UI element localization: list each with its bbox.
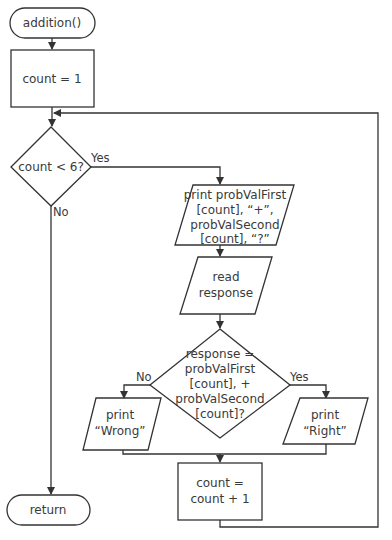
increment-line-1: count = [196, 476, 244, 490]
read-response-line-1: read [212, 270, 239, 284]
read-response-line-2: response [199, 286, 254, 300]
answer-yes-label: Yes [289, 370, 309, 384]
print-wrong-io: print “Wrong” [83, 398, 161, 450]
print-right-io: print “Right” [283, 398, 368, 444]
edge-merge [123, 444, 326, 454]
answer-check-line-4: probValSecond [175, 392, 264, 406]
print-problem-line-1: print probValFirst [184, 188, 287, 202]
print-problem-line-3: probValSecond [190, 218, 279, 232]
edge-answer-no [124, 385, 150, 398]
start-terminator: addition() [10, 8, 95, 38]
loop-check-label: count < 6? [18, 160, 84, 174]
print-problem-line-4: [count], “?” [200, 232, 270, 246]
answer-check-line-5: [count]? [195, 407, 245, 421]
read-response-io: read response [180, 257, 272, 314]
answer-check-decision: response = probValFirst [count], + probV… [150, 329, 290, 438]
loop-yes-label: Yes [90, 151, 110, 165]
flowchart: addition() count = 1 count < 6? Yes No p… [0, 0, 392, 540]
increment-process-box: count = count + 1 [178, 463, 262, 520]
edge-answer-yes [290, 385, 326, 398]
answer-no-label: No [136, 370, 152, 384]
print-wrong-line-1: print [106, 408, 134, 422]
increment-line-2: count + 1 [190, 492, 249, 506]
init-process-box: count = 1 [11, 50, 94, 107]
init-label: count = 1 [22, 72, 81, 86]
answer-check-line-2: probValFirst [185, 362, 256, 376]
loop-no-label: No [53, 205, 69, 219]
print-problem-io: print probValFirst [count], “+”, probVal… [175, 185, 294, 246]
answer-check-line-3: [count], + [190, 377, 251, 391]
end-terminator: return [7, 495, 90, 525]
loop-check-decision: count < 6? [11, 127, 91, 206]
print-problem-line-2: [count], “+”, [196, 203, 273, 217]
print-right-line-1: print [311, 408, 339, 422]
answer-check-line-1: response = [186, 347, 254, 361]
start-label: addition() [23, 16, 81, 30]
end-label: return [30, 503, 67, 517]
print-wrong-line-2: “Wrong” [95, 424, 146, 438]
edge-loop-yes [91, 167, 220, 184]
print-right-line-2: “Right” [303, 424, 347, 438]
